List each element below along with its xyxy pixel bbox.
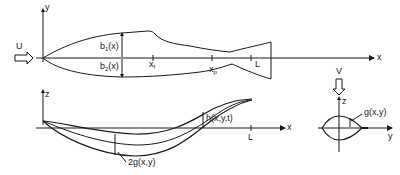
displacement-h-label: h(x,y,t): [206, 114, 233, 123]
xp-label: xp: [209, 65, 217, 75]
top-view: [15, 10, 374, 79]
thickness-g-label: g(x,y): [364, 108, 387, 117]
top-axis-y-label: y: [45, 3, 50, 12]
xf-label: xf: [149, 60, 155, 70]
side-view: [36, 91, 285, 162]
top-axis-x-label: x: [377, 53, 382, 62]
top-length-label: L: [255, 60, 260, 69]
thickness-2g-label: 2g(x,y): [128, 158, 156, 167]
fish-geometry-diagram: [0, 0, 400, 175]
side-axis-z-label: z: [45, 90, 50, 99]
flow-arrow-down-icon: [333, 79, 345, 95]
side-length-label: L: [248, 133, 253, 142]
flow-arrow-icon: [15, 52, 33, 64]
cross-axis-z-label: z: [342, 97, 347, 106]
b2-label: b2(x): [100, 62, 119, 72]
flow-label-v: V: [336, 67, 342, 76]
cross-axis-y-label: y: [388, 132, 393, 141]
b1-label: b1(x): [100, 42, 119, 52]
fish-lower-outline: [43, 58, 271, 79]
side-axis-x-label: x: [287, 123, 292, 132]
fish-upper-outline: [43, 31, 271, 79]
flow-label-u: U: [16, 42, 23, 51]
